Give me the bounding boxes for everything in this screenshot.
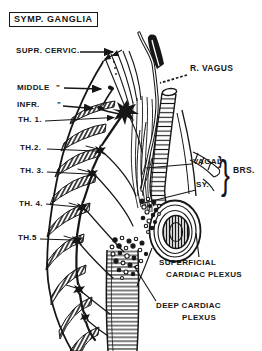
label-middle: MIDDLE <box>17 83 50 92</box>
trachea-tube <box>150 88 177 210</box>
label-th3: TH. 3. <box>20 166 44 175</box>
title-box: SYMP. GANGLIA <box>9 12 98 27</box>
nerve-root-fan <box>102 50 141 107</box>
label-th5: TH.5 <box>18 233 37 242</box>
middle-ditto-mark: " <box>56 83 60 92</box>
group-brace: } <box>221 155 230 195</box>
anatomy-figure: SYMP. GANGLIA SUPR. CERVIC. MIDDLE " INF… <box>0 0 262 351</box>
th3-leader <box>47 172 89 174</box>
middle-arrow <box>64 88 101 89</box>
label-deep-line2: PLEXUS <box>182 313 216 322</box>
label-sy: SY. <box>196 180 209 189</box>
infr-arrow <box>63 106 93 109</box>
label-brs: BRS. <box>233 166 255 175</box>
label-r-vagus: R. VAGUS <box>190 64 233 73</box>
label-deep-line1: DEEP CARDIAC <box>156 301 221 310</box>
label-th2: TH.2. <box>20 143 41 152</box>
label-superficial-line2: CARDIAC PLEXUS <box>166 270 242 279</box>
th5-leader <box>40 239 73 240</box>
label-th1: TH. 1. <box>18 115 42 124</box>
carotid-artery <box>148 35 164 69</box>
vessel-outlines-right <box>177 110 196 196</box>
label-supr-cervic: SUPR. CERVIC. <box>16 46 80 55</box>
label-superficial-line1: SUPERFICIAL <box>159 258 216 267</box>
stellate-ganglion <box>112 100 139 125</box>
label-infr: INFR. <box>17 100 40 109</box>
figure-title: SYMP. GANGLIA <box>14 14 93 24</box>
r-vagus-leader <box>160 75 187 83</box>
ribs <box>46 101 115 351</box>
label-th4: TH. 4. <box>19 199 43 208</box>
infr-ditto-mark: " <box>57 100 61 109</box>
